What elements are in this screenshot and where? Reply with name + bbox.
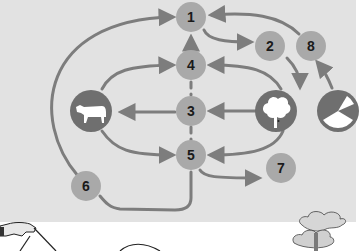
pie-chart-icon bbox=[317, 90, 359, 132]
tree-icon bbox=[255, 90, 297, 132]
node-7: 7 bbox=[266, 153, 296, 183]
node-6: 6 bbox=[71, 171, 101, 201]
cow-icon bbox=[70, 90, 112, 132]
node-label: 1 bbox=[187, 9, 195, 25]
node-label: 5 bbox=[187, 147, 195, 163]
node-label: 8 bbox=[307, 38, 315, 54]
node-label: 4 bbox=[187, 57, 195, 73]
node-4: 4 bbox=[176, 50, 206, 80]
node-label: 2 bbox=[266, 38, 274, 54]
node-5: 5 bbox=[176, 140, 206, 170]
watering-can-hand-illustration bbox=[0, 222, 60, 251]
factory-smoke-illustration bbox=[290, 205, 356, 251]
node-3: 3 bbox=[176, 96, 206, 126]
node-8: 8 bbox=[296, 31, 326, 61]
node-2: 2 bbox=[255, 31, 285, 61]
node-label: 7 bbox=[277, 160, 285, 176]
node-label: 6 bbox=[82, 178, 90, 194]
partial-illustration bbox=[115, 240, 165, 251]
node-label: 3 bbox=[187, 103, 195, 119]
node-1: 1 bbox=[176, 2, 206, 32]
